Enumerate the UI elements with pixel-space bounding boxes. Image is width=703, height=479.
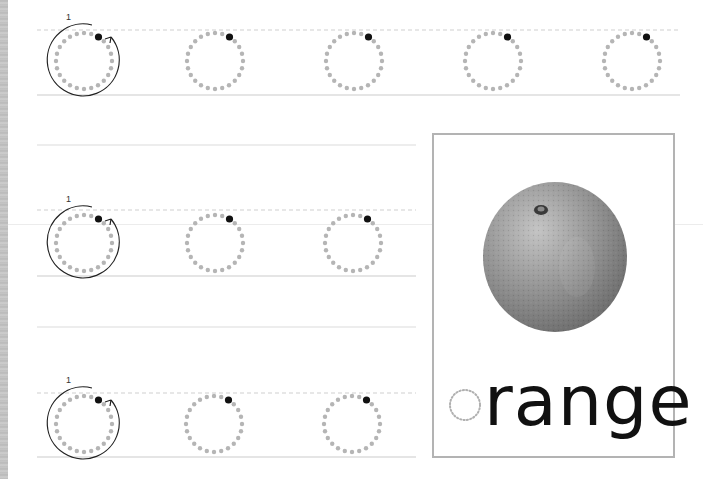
row-1-guides (37, 30, 680, 95)
trace-circle-demo[interactable]: 1 (47, 194, 119, 278)
trace-circle[interactable] (324, 31, 384, 91)
trace-circle-demo[interactable]: 1 (47, 375, 119, 459)
trace-circle[interactable] (322, 394, 382, 454)
dotted-letter-o (448, 388, 482, 422)
row-3-guides (37, 327, 416, 457)
trace-circle[interactable] (463, 31, 523, 91)
row-3-tracing[interactable]: 1 (47, 375, 382, 459)
orange-fruit-image (482, 179, 628, 333)
trace-circle[interactable] (185, 213, 245, 273)
stroke-number-label: 1 (66, 12, 71, 22)
picture-card: range (432, 133, 675, 458)
row-2-guides (37, 145, 416, 276)
stroke-number-label: 1 (66, 194, 71, 204)
row-2-tracing[interactable]: 1 (47, 194, 383, 278)
trace-circle[interactable] (184, 394, 244, 454)
card-word-text: range (484, 351, 693, 451)
row-1-tracing[interactable]: 1 (47, 12, 662, 96)
card-word: range (440, 357, 676, 457)
trace-circle[interactable] (323, 213, 383, 273)
stroke-number-label: 1 (66, 375, 71, 385)
trace-circle-demo[interactable]: 1 (47, 12, 119, 96)
trace-circle[interactable] (602, 31, 662, 91)
stem-icon (534, 205, 548, 215)
trace-circle[interactable] (185, 31, 245, 91)
